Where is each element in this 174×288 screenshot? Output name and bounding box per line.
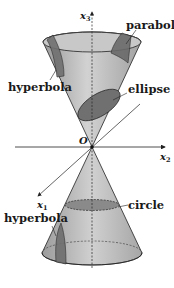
origin-point — [90, 145, 94, 149]
origin-label: O — [79, 135, 88, 146]
circle-label: circle — [128, 198, 164, 212]
hyperbola-top-leader — [50, 70, 56, 80]
parabola-label: parabola — [126, 18, 174, 32]
x2-label: x2 — [159, 151, 171, 164]
hyperbola-bottom-label: hyperbola — [4, 211, 69, 225]
x3-label: x3 — [79, 10, 91, 23]
ellipse-label: ellipse — [128, 82, 170, 96]
conic-sections-diagram: x3 x2 x1 O parabola hyperbola ellipse ci… — [0, 0, 174, 288]
hyperbola-top-label: hyperbola — [8, 80, 73, 94]
